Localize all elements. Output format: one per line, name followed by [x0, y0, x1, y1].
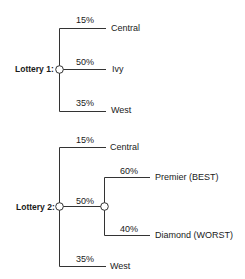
outcome-label: Diamond (WORST) [155, 230, 233, 240]
chance-node-2b [101, 203, 109, 211]
outcome-label: Central [110, 142, 139, 152]
outcome-label: West [111, 105, 131, 115]
prob-label: 15% [76, 15, 94, 25]
prob-label: 35% [76, 98, 94, 108]
chance-node-1 [56, 66, 64, 74]
prob-label: 60% [120, 166, 138, 176]
prob-label: 35% [76, 254, 94, 264]
lottery-1-label: Lottery 1: [15, 64, 54, 74]
outcome-label: Ivy [112, 64, 124, 74]
prob-label: 50% [76, 196, 94, 206]
chance-node-2 [56, 203, 64, 211]
prob-label: 40% [120, 224, 138, 234]
prob-label: 50% [76, 57, 94, 67]
outcome-label: Central [111, 23, 140, 33]
outcome-label: Premier (BEST) [155, 172, 219, 182]
outcome-label: West [110, 261, 130, 271]
prob-label: 15% [76, 135, 94, 145]
lottery-2-label: Lottery 2: [16, 202, 55, 212]
